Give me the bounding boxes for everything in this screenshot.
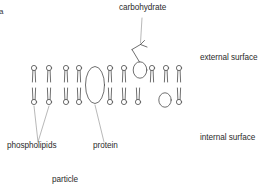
phospholipid (107, 65, 112, 82)
phospholipid (176, 88, 181, 105)
label-phospholipids: phospholipids (7, 142, 56, 151)
leader-carbohydrate (141, 18, 143, 43)
transmembrane-protein (86, 67, 105, 104)
panel-letter: a (0, 7, 3, 16)
phospholipid (76, 88, 81, 105)
caption-fragment: particle (52, 176, 78, 185)
phospholipid (46, 65, 51, 82)
upper-leaflet-phospholipids (31, 65, 181, 82)
inner-protein (159, 93, 171, 107)
carbohydrate-branch (132, 41, 147, 63)
phospholipid (149, 65, 154, 82)
phospholipid (76, 65, 81, 82)
phospholipid (121, 88, 126, 105)
label-carbohydrate: carbohydrate (119, 4, 166, 13)
leader-protein (95, 105, 104, 142)
leader-phospholipid-1 (34, 106, 38, 142)
phospholipid (46, 88, 51, 105)
phospholipid (31, 65, 36, 82)
label-internal-surface: internal surface (200, 134, 255, 143)
phospholipid (135, 88, 140, 105)
phospholipid (63, 65, 68, 82)
label-protein: protein (93, 142, 118, 151)
figure-canvas: a carbohydrate external surface internal… (0, 0, 265, 185)
leader-phospholipid-2 (38, 106, 49, 142)
phospholipid (107, 88, 112, 105)
phospholipid (31, 88, 36, 105)
glycoprotein (133, 62, 147, 78)
phospholipid (63, 88, 68, 105)
phospholipid (176, 65, 181, 82)
phospholipid (163, 65, 168, 82)
label-external-surface: external surface (200, 54, 257, 63)
membrane-diagram (0, 0, 265, 185)
phospholipid (121, 65, 126, 82)
